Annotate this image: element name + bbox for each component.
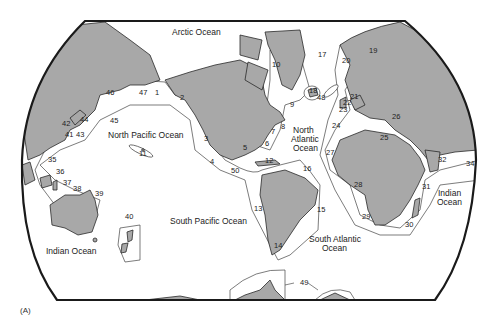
region-label-6: 6 [265, 139, 269, 148]
region-label-13: 13 [254, 204, 262, 213]
region-label-49: 49 [300, 278, 308, 287]
figure-caption: (A) [20, 306, 31, 315]
region-label-10: 10 [272, 60, 280, 69]
region-label-39: 39 [95, 189, 103, 198]
region-label-26: 26 [392, 112, 400, 121]
ocean-label-south-pacific: South Pacific Ocean [170, 216, 247, 226]
region-label-17: 17 [318, 50, 326, 59]
world-map: Arctic Ocean North Pacific Ocean North A… [0, 0, 491, 333]
region-label-34: 34 [466, 159, 474, 168]
region-label-46: 46 [106, 88, 114, 97]
region-label-37: 37 [63, 178, 71, 187]
region-label-48: 48 [317, 93, 325, 102]
region-label-20: 20 [342, 56, 350, 65]
region-label-11: 11 [139, 149, 147, 158]
region-label-23: 23 [339, 105, 347, 114]
region-label-44: 44 [80, 115, 88, 124]
ocean-label-indian-west: Indian Ocean [46, 246, 97, 256]
region-label-8: 8 [281, 122, 285, 131]
region-label-47: 47 [139, 88, 147, 97]
region-label-25: 25 [380, 133, 388, 142]
region-label-14: 14 [274, 241, 282, 250]
ocean-label-indian-east-2: Ocean [437, 197, 462, 207]
region-label-30: 30 [405, 220, 413, 229]
region-label-29: 29 [362, 212, 370, 221]
region-label-42: 42 [62, 119, 70, 128]
region-label-38: 38 [73, 184, 81, 193]
ocean-label-arctic: Arctic Ocean [172, 27, 221, 37]
region-label-7: 7 [271, 127, 275, 136]
region-label-2: 2 [180, 93, 184, 102]
region-label-9: 9 [290, 100, 294, 109]
region-label-19: 19 [369, 46, 377, 55]
region-label-36: 36 [56, 167, 64, 176]
region-label-1: 1 [155, 88, 159, 97]
region-label-45: 45 [110, 116, 118, 125]
region-label-16: 16 [303, 164, 311, 173]
region-label-12: 12 [265, 156, 273, 165]
region-label-4: 4 [210, 157, 214, 166]
region-label-41: 41 [65, 130, 73, 139]
region-label-15: 15 [317, 205, 325, 214]
region-label-31: 31 [422, 182, 430, 191]
region-label-5: 5 [243, 143, 247, 152]
region-label-24: 24 [332, 121, 340, 130]
region-label-3: 3 [204, 134, 208, 143]
region-label-50: 50 [231, 166, 239, 175]
region-label-27: 27 [326, 148, 334, 157]
map-content [0, 0, 491, 333]
region-label-43: 43 [76, 130, 84, 139]
region-label-32: 32 [438, 155, 446, 164]
ocean-label-north-pacific: North Pacific Ocean [108, 130, 184, 140]
ocean-label-south-atlantic-2: Ocean [322, 243, 347, 253]
region-label-28: 28 [354, 180, 362, 189]
region-label-40: 40 [125, 212, 133, 221]
region-label-35: 35 [48, 155, 56, 164]
ocean-label-north-atlantic-3: Ocean [293, 143, 318, 153]
